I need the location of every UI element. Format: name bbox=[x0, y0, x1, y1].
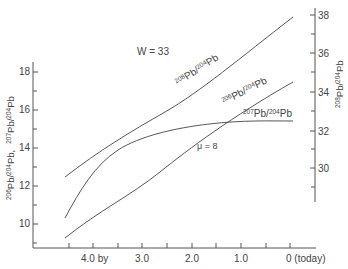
left-axis-title: 206Pb/204Pb,207Pb/204Pb bbox=[5, 96, 16, 200]
x-tick-2: 2.0 bbox=[185, 253, 199, 264]
series-207pb-curve bbox=[65, 121, 293, 218]
right-tick-34: 34 bbox=[318, 87, 330, 98]
left-tick-16: 16 bbox=[19, 104, 31, 115]
series-208pb-line bbox=[65, 17, 293, 177]
label-206pb: 206Pb/204Pb bbox=[220, 75, 269, 107]
x-tick-1: 1.0 bbox=[234, 253, 248, 264]
annotation-mu: μ = 8 bbox=[197, 141, 217, 151]
left-tick-18: 18 bbox=[19, 66, 31, 77]
left-y-tick-labels: 18 16 14 12 10 bbox=[19, 66, 31, 229]
right-tick-32: 32 bbox=[318, 126, 330, 137]
chart-canvas: 18 16 14 12 10 206Pb/204Pb,207Pb/204Pb 3… bbox=[0, 0, 348, 269]
right-y-tick-labels: 38 36 34 32 30 bbox=[318, 10, 330, 174]
x-tick-4: 4.0 by bbox=[81, 253, 108, 264]
x-tick-labels: 4.0 by 3.0 2.0 1.0 0 (today) bbox=[81, 253, 325, 264]
label-208pb: 208Pb/204Pb bbox=[173, 52, 220, 88]
x-axis bbox=[33, 243, 316, 248]
left-y-axis bbox=[33, 62, 38, 248]
series-206pb-line bbox=[65, 82, 293, 238]
left-tick-10: 10 bbox=[19, 218, 31, 229]
left-tick-14: 14 bbox=[19, 142, 31, 153]
right-tick-36: 36 bbox=[318, 48, 330, 59]
right-tick-38: 38 bbox=[318, 10, 330, 21]
right-y-axis bbox=[310, 8, 315, 202]
left-tick-12: 12 bbox=[19, 180, 31, 191]
label-207pb: 207Pb/204Pb bbox=[243, 108, 292, 119]
annotation-w: W = 33 bbox=[137, 46, 169, 57]
x-tick-3: 3.0 bbox=[135, 253, 149, 264]
right-tick-30: 30 bbox=[318, 163, 330, 174]
right-axis-title: 208Pb/204Pb bbox=[334, 60, 345, 108]
x-tick-0: 0 (today) bbox=[286, 253, 325, 264]
